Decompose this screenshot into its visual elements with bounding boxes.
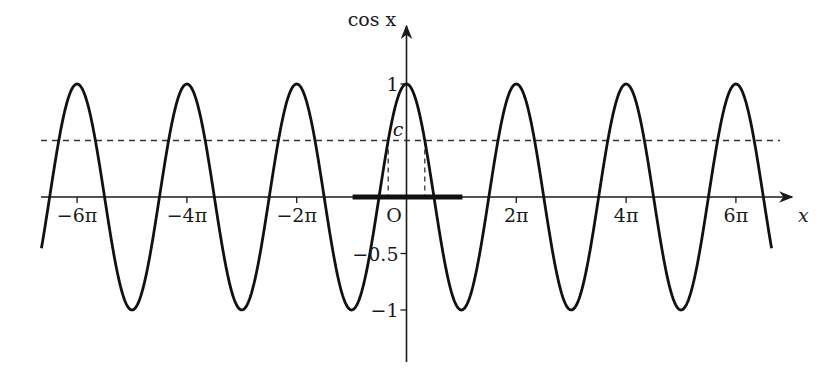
x-tick-label: −2π (276, 204, 317, 226)
x-tick-label: 6π (724, 204, 749, 226)
x-tick-label: −4π (167, 204, 208, 226)
y-tick-label: −1 (370, 299, 398, 321)
x-tick-label: −6π (57, 204, 98, 226)
c-label: c (393, 118, 404, 140)
x-tick-label: 4π (614, 204, 639, 226)
y-tick-label: 1 (386, 73, 398, 95)
origin-label: O (386, 204, 402, 226)
x-axis-label: x (798, 204, 809, 226)
y-tick-label: −0.5 (352, 243, 398, 265)
x-tick-label: 2π (504, 204, 529, 226)
cosine-graph: −6π−4π−2π2π4π6π1−0.5−1cos xxOc (0, 0, 824, 388)
y-axis-label: cos x (348, 8, 397, 30)
